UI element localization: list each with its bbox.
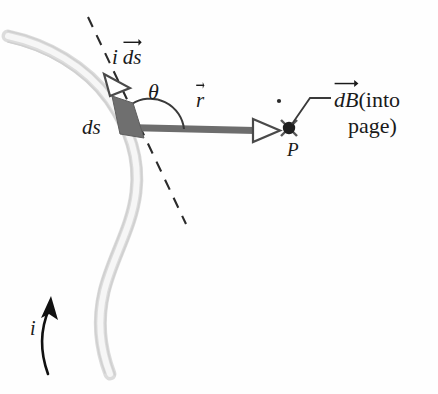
current-direction-arrow bbox=[41, 296, 58, 374]
figure-canvas bbox=[0, 0, 438, 394]
label-r-vector: r bbox=[196, 88, 204, 111]
physics-figure: ids θ r ds P dB(intopage) i bbox=[0, 0, 438, 394]
label-ds-segment: ds bbox=[82, 116, 101, 138]
label-dB: dB(intopage) bbox=[334, 86, 400, 139]
ids-vector-base: ds bbox=[123, 45, 142, 69]
stray-dot bbox=[277, 99, 281, 103]
label-point-p: P bbox=[287, 140, 299, 160]
current-element-segment bbox=[112, 96, 144, 138]
label-theta: θ bbox=[148, 80, 159, 103]
r-vector-base: r bbox=[196, 88, 204, 112]
r-vector-arrow bbox=[126, 119, 280, 142]
label-current-element: ids bbox=[112, 45, 142, 68]
dB-line2: page) bbox=[334, 113, 400, 139]
dB-vector-group: dB bbox=[334, 86, 358, 113]
ids-prefix: i bbox=[112, 45, 118, 69]
point-P-into-page-marker bbox=[281, 120, 297, 136]
dB-line1-suffix: (into bbox=[358, 87, 400, 112]
dB-leader-line bbox=[292, 98, 331, 124]
label-current: i bbox=[30, 318, 36, 339]
ids-vector-group: ds bbox=[123, 45, 142, 68]
r-vector-group: r bbox=[196, 88, 204, 111]
dB-vector-base: dB bbox=[334, 87, 358, 112]
